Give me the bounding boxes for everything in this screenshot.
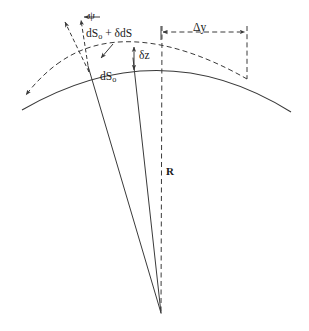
original-arc-length-label: dSo xyxy=(100,71,116,85)
delta-y-label: Δy xyxy=(193,22,206,34)
delta-z-label: δz xyxy=(139,50,150,62)
ds-original-prefix: dS xyxy=(100,70,112,82)
radial-line-left xyxy=(88,66,161,313)
curvature-deformation-figure: ψ dSo + δdS δz dSo Δy R xyxy=(0,0,309,331)
ds-original-subscript: o xyxy=(112,75,116,84)
radius-label: R xyxy=(166,166,174,177)
diagram-canvas xyxy=(0,0,309,331)
deformed-arc-left-tail xyxy=(26,62,60,95)
ds-deformed-suffix: + δdS xyxy=(102,27,132,39)
undeformed-arc xyxy=(22,70,291,112)
psi-angle-label: ψ xyxy=(88,10,95,21)
deformed-arc-length-label: dSo + δdS xyxy=(86,28,132,42)
radius-line-R xyxy=(161,26,162,313)
ds-deformed-leader xyxy=(101,44,113,58)
radial-line-right xyxy=(133,58,161,313)
ds-deformed-prefix: dS xyxy=(86,27,98,39)
deformed-arc xyxy=(60,42,247,79)
